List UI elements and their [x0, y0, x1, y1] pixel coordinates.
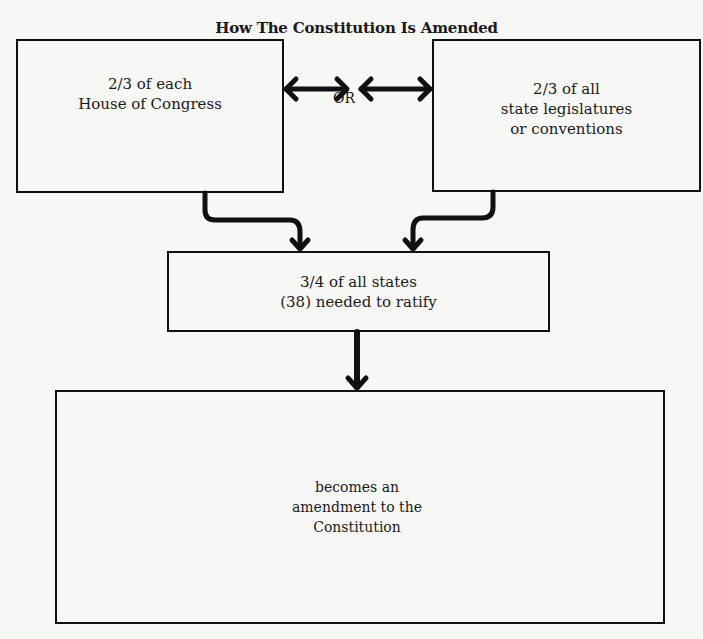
arrow-ratify-to-amendment: [348, 332, 366, 388]
bidirectional-arrow-right: [361, 79, 430, 99]
arrow-states-to-ratify: [405, 192, 493, 249]
connector-layer: [0, 0, 703, 639]
bidirectional-arrow-left: [286, 79, 347, 99]
arrow-congress-to-ratify: [205, 193, 308, 249]
